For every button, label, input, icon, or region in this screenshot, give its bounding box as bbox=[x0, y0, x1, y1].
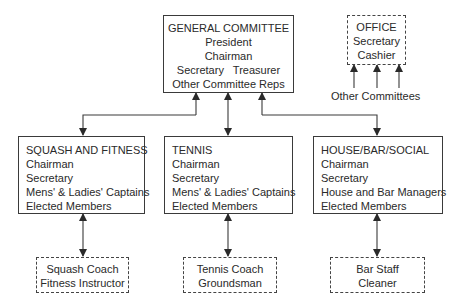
office-role: Cashier bbox=[348, 48, 405, 62]
house-bar-social-box: HOUSE/BAR/SOCIAL Chairman Secretary Hous… bbox=[313, 136, 443, 214]
committee-role: Secretary bbox=[26, 171, 144, 185]
staff-role: Fitness Instructor bbox=[37, 276, 128, 290]
committee-role: Secretary bbox=[172, 171, 292, 185]
gc-role: Other Committee Reps bbox=[164, 77, 293, 91]
staff-role: Groundsman bbox=[184, 276, 276, 290]
tennis-box: TENNIS Chairman Secretary Mens' & Ladies… bbox=[164, 136, 293, 214]
committee-role: Chairman bbox=[172, 157, 292, 171]
gc-role: Secretary Treasurer bbox=[164, 63, 293, 77]
staff-role: Cleaner bbox=[331, 276, 424, 290]
other-committees-label: Other Committees bbox=[331, 90, 420, 103]
squash-staff-box: Squash Coach Fitness Instructor bbox=[36, 257, 129, 293]
committee-title: SQUASH AND FITNESS bbox=[26, 143, 144, 157]
gc-house-connector bbox=[262, 115, 377, 135]
committee-role: Secretary bbox=[321, 171, 442, 185]
tennis-staff-box: Tennis Coach Groundsman bbox=[183, 257, 277, 293]
committee-role: Chairman bbox=[26, 157, 144, 171]
office-box: OFFICE Secretary Cashier bbox=[347, 15, 406, 65]
office-title: OFFICE bbox=[348, 20, 405, 34]
committee-role: Elected Members bbox=[321, 199, 442, 213]
gc-role: Chairman bbox=[164, 49, 293, 63]
staff-role: Tennis Coach bbox=[184, 262, 276, 276]
committee-role: Elected Members bbox=[26, 199, 144, 213]
gc-role: President bbox=[164, 35, 293, 49]
committee-title: HOUSE/BAR/SOCIAL bbox=[321, 143, 442, 157]
committee-role: House and Bar Managers bbox=[321, 185, 442, 199]
committee-role: Elected Members bbox=[172, 199, 292, 213]
committee-role: Mens' & Ladies' Captains bbox=[172, 185, 292, 199]
committee-role: Mens' & Ladies' Captains bbox=[26, 185, 144, 199]
squash-fitness-box: SQUASH AND FITNESS Chairman Secretary Me… bbox=[18, 136, 145, 214]
committee-title: TENNIS bbox=[172, 143, 292, 157]
office-role: Secretary bbox=[348, 34, 405, 48]
committee-role: Chairman bbox=[321, 157, 442, 171]
bar-staff-box: Bar Staff Cleaner bbox=[330, 257, 425, 293]
general-committee-box: GENERAL COMMITTEE President Chairman Sec… bbox=[163, 15, 294, 93]
general-committee-title: GENERAL COMMITTEE bbox=[164, 21, 293, 35]
staff-role: Squash Coach bbox=[37, 262, 128, 276]
gc-squash-connector bbox=[83, 115, 196, 135]
staff-role: Bar Staff bbox=[331, 262, 424, 276]
